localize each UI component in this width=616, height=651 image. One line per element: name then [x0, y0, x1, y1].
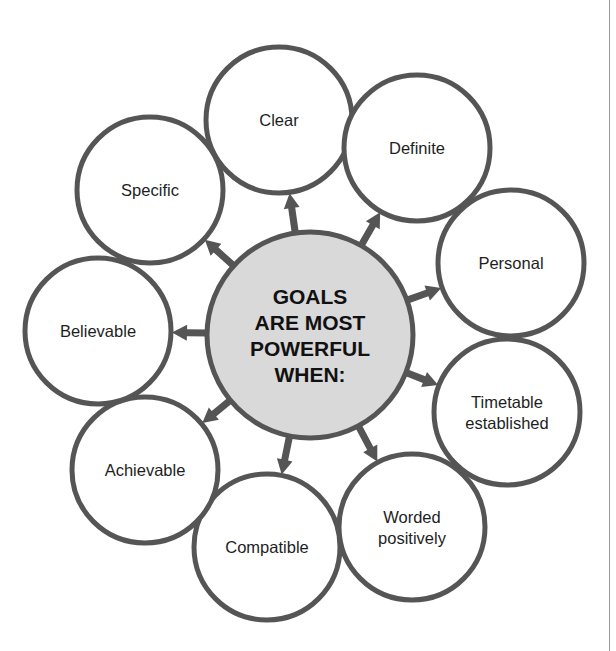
node-label: Worded: [383, 508, 440, 526]
node-believable: Believable: [25, 258, 171, 404]
node-specific: Specific: [77, 117, 223, 263]
node-label: Personal: [478, 254, 543, 272]
node-timetable-established: Timetableestablished: [434, 339, 580, 485]
center-title-line: ARE MOST: [255, 311, 366, 334]
node-circle: [339, 454, 485, 600]
center-title-line: WHEN:: [274, 363, 345, 386]
node-label: Believable: [60, 322, 136, 340]
node-achievable: Achievable: [72, 397, 218, 543]
node-personal: Personal: [438, 190, 584, 336]
node-label: positively: [378, 529, 447, 547]
center-title-line: GOALS: [273, 285, 348, 308]
node-worded-positively: Wordedpositively: [339, 454, 485, 600]
arrow-icon-believable: [172, 325, 209, 341]
node-circle: [434, 339, 580, 485]
node-definite: Definite: [344, 75, 490, 221]
goals-diagram: ClearDefinitePersonalTimetableestablishe…: [0, 0, 616, 651]
node-label: established: [465, 414, 548, 432]
node-label: Specific: [121, 181, 179, 199]
node-label: Achievable: [105, 461, 186, 479]
node-label: Clear: [259, 111, 299, 129]
node-label: Definite: [389, 139, 445, 157]
arrow-icon-compatible: [277, 433, 294, 474]
center-node: GOALSARE MOSTPOWERFULWHEN:: [207, 232, 413, 438]
arrow-icon-clear: [284, 193, 300, 235]
node-label: Compatible: [225, 538, 308, 556]
node-label: Timetable: [471, 393, 543, 411]
center-circle: [207, 232, 413, 438]
center-title-line: POWERFUL: [250, 337, 370, 360]
node-clear: Clear: [206, 47, 352, 193]
